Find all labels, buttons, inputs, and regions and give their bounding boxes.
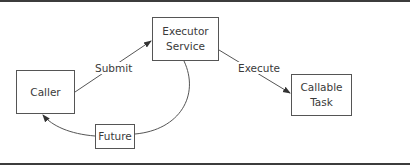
callable-task-node: Callable Task: [291, 74, 352, 116]
submit-label: Submit: [94, 62, 133, 74]
service-to-future-edge: [135, 61, 189, 134]
future-label: Future: [98, 129, 131, 144]
caller-node: Caller: [16, 70, 75, 114]
caller-label: Caller: [30, 85, 60, 100]
callable-task-label: Callable Task: [300, 80, 342, 110]
bottom-rule: [0, 163, 410, 165]
future-node: Future: [95, 124, 135, 149]
diagram-canvas: Executor Service Caller Callable Task Fu…: [0, 0, 410, 166]
executor-service-node: Executor Service: [152, 17, 219, 61]
executor-service-label: Executor Service: [162, 24, 208, 54]
future-to-caller-edge: [43, 115, 95, 136]
execute-label: Execute: [237, 62, 281, 74]
